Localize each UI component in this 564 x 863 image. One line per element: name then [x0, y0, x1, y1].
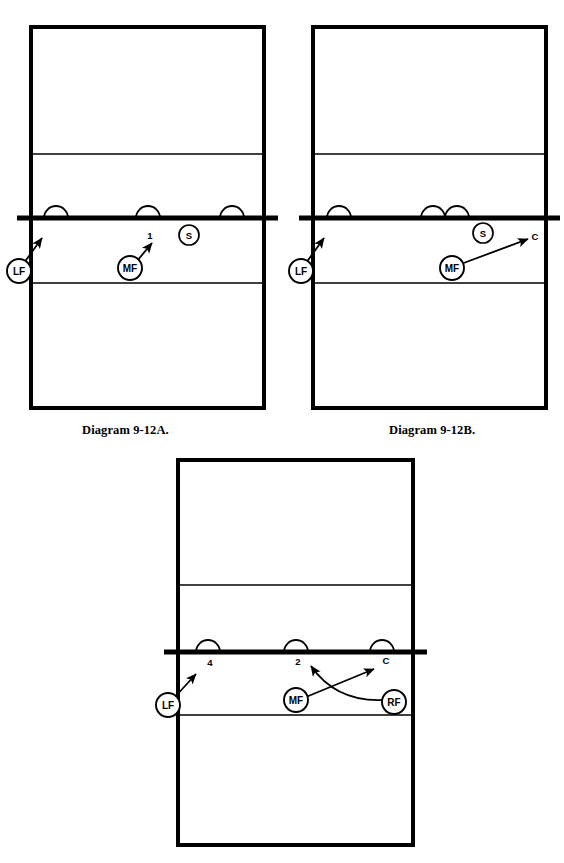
court-svg-b: C LF MF S	[0, 0, 564, 420]
arrow-mf-movement	[461, 239, 528, 264]
court-svg-c: 4 2 C LF MF RF	[0, 440, 564, 863]
arrow-rf-movement	[311, 666, 383, 700]
player-token-mf[interactable]: MF	[440, 256, 464, 280]
caption-diagram-b: Diagram 9-12B.	[389, 423, 475, 438]
diagram-page: 1 LF MF S Diagram 9-12A.	[0, 0, 564, 863]
player-label-lf: LF	[295, 266, 307, 277]
player-label-mf: MF	[289, 695, 303, 706]
player-token-s[interactable]: S	[473, 223, 493, 243]
player-token-rf[interactable]: RF	[382, 690, 406, 714]
zone-label-c: C	[383, 655, 390, 666]
player-token-mf[interactable]: MF	[284, 688, 308, 712]
player-token-lf[interactable]: LF	[289, 259, 313, 283]
player-label-mf: MF	[445, 263, 459, 274]
zone-label-2: 2	[295, 656, 300, 667]
zone-label-c: C	[532, 231, 539, 242]
zone-label-4: 4	[207, 657, 213, 668]
player-label-s: S	[480, 228, 486, 239]
volleyball-court-diagram-c: 4 2 C LF MF RF	[0, 440, 564, 863]
caption-diagram-a: Diagram 9-12A.	[82, 423, 169, 438]
player-label-lf: LF	[162, 700, 174, 711]
player-label-rf: RF	[387, 697, 400, 708]
player-token-lf[interactable]: LF	[156, 693, 180, 717]
